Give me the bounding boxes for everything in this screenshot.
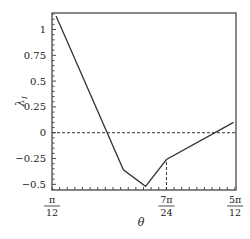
- x-tick-denominator: 12: [46, 207, 58, 218]
- x-tick-numerator: 7π: [160, 194, 172, 205]
- y-axis-label-main: λ: [14, 100, 27, 108]
- chart: 10.750.50.250−0.25−0.5 π127π245π12 θ λ I: [0, 0, 250, 239]
- y-tick-label: −0.5: [22, 179, 46, 190]
- y-tick-label: 0.75: [24, 50, 46, 61]
- y-axis-label-subscript: I: [21, 96, 29, 100]
- y-tick-label: 1: [40, 24, 46, 35]
- series-line-lambda_I: [56, 16, 233, 186]
- x-tick-numerator: π: [49, 194, 55, 205]
- reference-lines: [52, 133, 236, 190]
- x-tick-denominator: 24: [160, 207, 172, 218]
- y-tick-label: 0.5: [30, 76, 46, 87]
- x-tick-label: 5π12: [227, 194, 243, 218]
- minor-ticks: [52, 14, 235, 190]
- y-tick-label: −0.25: [15, 153, 46, 164]
- x-tick-labels: π127π245π12: [44, 194, 243, 218]
- series-group: [56, 16, 233, 186]
- x-axis-label: θ: [138, 216, 145, 229]
- y-tick-label: 0: [40, 127, 46, 138]
- x-tick-denominator: 12: [229, 207, 241, 218]
- x-tick-label: π12: [44, 194, 60, 218]
- y-axis-label: λ I: [14, 96, 29, 107]
- plot-frame: [52, 13, 236, 190]
- x-tick-numerator: 5π: [229, 194, 241, 205]
- y-tick-label: 0.25: [24, 101, 46, 112]
- x-tick-label: 7π24: [158, 194, 174, 218]
